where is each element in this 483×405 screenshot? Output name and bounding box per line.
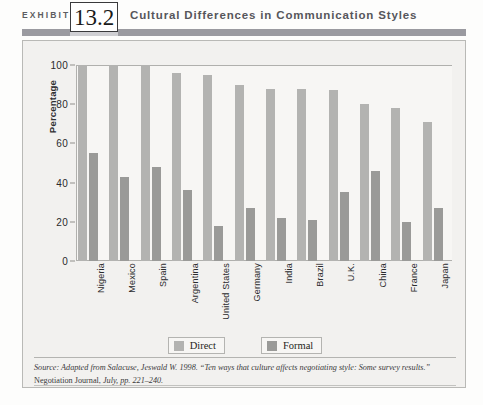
bar-formal bbox=[340, 192, 349, 261]
bar-group bbox=[233, 65, 264, 261]
y-tick-mark-0 bbox=[70, 261, 75, 262]
legend-swatch-icon bbox=[174, 341, 184, 351]
source-text-lead: Source: Adapted from Salacuse, Jeswald W… bbox=[34, 363, 430, 372]
bars-area bbox=[76, 65, 452, 261]
y-tick-mark-40 bbox=[70, 182, 75, 183]
bar-formal bbox=[434, 208, 443, 261]
legend-label: Direct bbox=[190, 340, 216, 351]
x-axis-label: U.K. bbox=[346, 263, 356, 281]
exhibit-container: EXHIBIT 13.2 Cultural Differences in Com… bbox=[0, 0, 483, 405]
bar-direct bbox=[391, 108, 400, 261]
bar-direct bbox=[109, 65, 118, 261]
bar-formal bbox=[402, 222, 411, 261]
legend-item-direct[interactable]: Direct bbox=[168, 337, 225, 354]
exhibit-label: EXHIBIT bbox=[22, 10, 70, 20]
source-issue-pages: July, pp. 221–240. bbox=[103, 376, 163, 385]
bar-formal bbox=[183, 190, 192, 261]
bar-direct bbox=[360, 104, 369, 261]
bar-group bbox=[295, 65, 326, 261]
x-axis-label: Germany bbox=[252, 263, 262, 301]
bar-formal bbox=[308, 220, 317, 261]
bar-formal bbox=[371, 171, 380, 261]
x-axis-label: United States bbox=[221, 263, 231, 320]
bar-group bbox=[421, 65, 452, 261]
y-tick-mark-20 bbox=[70, 221, 75, 222]
x-axis-label: Brazil bbox=[315, 263, 325, 287]
x-axis-label: Nigeria bbox=[96, 263, 106, 293]
exhibit-header: EXHIBIT 13.2 Cultural Differences in Com… bbox=[0, 0, 483, 40]
bar-formal bbox=[89, 153, 98, 261]
bar-direct bbox=[266, 89, 275, 261]
x-axis-label: Mexico bbox=[127, 263, 137, 293]
bar-group bbox=[264, 65, 295, 261]
y-tick-label-40: 40 bbox=[56, 177, 68, 188]
bar-direct bbox=[172, 73, 181, 261]
legend-swatch-icon bbox=[267, 341, 277, 351]
x-axis-label: Japan bbox=[440, 263, 450, 289]
x-axis-label: China bbox=[378, 263, 388, 288]
bar-formal bbox=[214, 226, 223, 261]
bar-group bbox=[201, 65, 232, 261]
y-tick-label-60: 60 bbox=[56, 138, 68, 149]
x-axis-label: Argentina bbox=[190, 263, 200, 303]
bar-direct bbox=[235, 85, 244, 261]
source-divider-top bbox=[34, 357, 456, 358]
source-divider-bottom bbox=[34, 385, 456, 386]
bar-direct bbox=[297, 89, 306, 261]
bar-group bbox=[389, 65, 420, 261]
exhibit-number: 13.2 bbox=[74, 6, 114, 29]
bar-group bbox=[107, 65, 138, 261]
x-axis-label: France bbox=[409, 263, 419, 292]
bar-direct bbox=[329, 90, 338, 261]
bar-direct bbox=[423, 122, 432, 261]
bar-group bbox=[327, 65, 358, 261]
y-axis-ticks: 020406080100 bbox=[23, 65, 76, 261]
bar-direct bbox=[141, 65, 150, 261]
y-tick-label-100: 100 bbox=[50, 60, 68, 71]
source-citation: Source: Adapted from Salacuse, Jeswald W… bbox=[34, 362, 458, 387]
bar-direct bbox=[78, 65, 87, 261]
bar-formal bbox=[277, 218, 286, 261]
chart-panel: Percentage 020406080100 NigeriaMexicoSpa… bbox=[22, 40, 466, 388]
source-journal-name: Negotiation Journal, bbox=[34, 376, 103, 385]
legend-label: Formal bbox=[283, 340, 313, 351]
y-tick-mark-60 bbox=[70, 143, 75, 144]
bar-formal bbox=[246, 208, 255, 261]
x-axis-label: Spain bbox=[158, 263, 168, 287]
bar-group bbox=[170, 65, 201, 261]
bar-group bbox=[76, 65, 107, 261]
bar-formal bbox=[120, 177, 129, 261]
y-tick-mark-80 bbox=[70, 104, 75, 105]
x-axis-labels: NigeriaMexicoSpainArgentinaUnited States… bbox=[76, 263, 452, 333]
bar-direct bbox=[203, 75, 212, 261]
bar-formal bbox=[152, 167, 161, 261]
exhibit-title: Cultural Differences in Communication St… bbox=[130, 9, 417, 21]
bar-group bbox=[358, 65, 389, 261]
legend-item-formal[interactable]: Formal bbox=[261, 337, 322, 354]
chart-legend: DirectFormal bbox=[23, 337, 467, 354]
exhibit-number-box: 13.2 bbox=[70, 2, 118, 32]
y-tick-mark-100 bbox=[70, 65, 75, 66]
y-tick-label-20: 20 bbox=[56, 216, 68, 227]
y-tick-label-0: 0 bbox=[62, 256, 68, 267]
y-tick-label-80: 80 bbox=[56, 99, 68, 110]
x-axis-label: India bbox=[284, 263, 294, 284]
bar-group bbox=[139, 65, 170, 261]
